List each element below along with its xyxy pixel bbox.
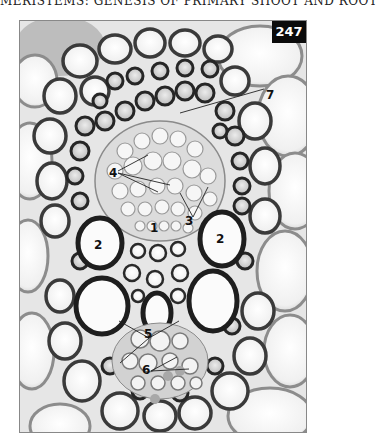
micrograph-figure: 247 7 4 3 1 2 2 5 6 bbox=[19, 20, 307, 433]
label-4: 4 bbox=[109, 167, 117, 179]
label-7: 7 bbox=[266, 89, 274, 101]
label-3: 3 bbox=[185, 215, 193, 227]
label-1: 1 bbox=[150, 222, 158, 234]
micrograph-image bbox=[20, 21, 307, 433]
running-head: MERISTEMS: GENESIS OF PRIMARY SHOOT AND … bbox=[0, 0, 325, 8]
figure-number-badge: 247 bbox=[272, 21, 306, 43]
label-2-right: 2 bbox=[216, 233, 224, 245]
label-2-left: 2 bbox=[94, 239, 102, 251]
label-6: 6 bbox=[142, 364, 150, 376]
label-5: 5 bbox=[144, 328, 152, 340]
